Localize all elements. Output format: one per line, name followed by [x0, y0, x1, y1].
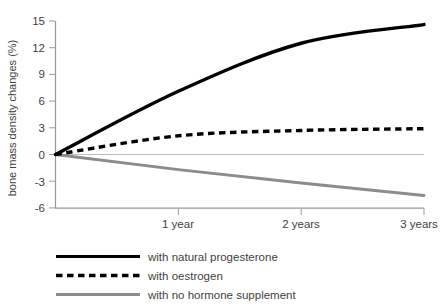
- legend-label-oestrogen: with oestrogen: [147, 270, 223, 282]
- y-tick-label-0: 0: [39, 149, 45, 161]
- y-axis-ticks: [49, 21, 55, 208]
- bone-mass-density-line-chart: bone mass density changes (%) 15 12 9 6 …: [0, 0, 447, 308]
- x-tick-label-3-years: 3 years: [400, 218, 438, 230]
- data-series-group: [56, 25, 425, 196]
- y-tick-label-12: 12: [32, 42, 45, 54]
- legend-label-no-hormone-supplement: with no hormone supplement: [147, 289, 296, 301]
- y-tick-label-minus6: -6: [35, 202, 45, 214]
- y-tick-label-6: 6: [39, 95, 45, 107]
- x-tick-label-2-years: 2 years: [282, 218, 320, 230]
- chart-legend: with natural progesterone with oestrogen…: [56, 251, 296, 301]
- series-line-no-hormone-supplement: [56, 155, 425, 196]
- y-tick-label-9: 9: [39, 68, 45, 80]
- y-axis-title: bone mass density changes (%): [6, 40, 18, 197]
- y-tick-label-minus3: -3: [35, 176, 45, 188]
- y-tick-label-15: 15: [32, 15, 45, 27]
- x-axis-ticks: [178, 208, 424, 215]
- series-line-natural-progesterone: [56, 25, 425, 155]
- series-line-oestrogen: [56, 129, 425, 155]
- chart-figure: bone mass density changes (%) 15 12 9 6 …: [0, 0, 447, 308]
- x-tick-label-1-year: 1 year: [162, 218, 194, 230]
- legend-label-natural-progesterone: with natural progesterone: [147, 251, 278, 263]
- y-tick-label-3: 3: [39, 122, 45, 134]
